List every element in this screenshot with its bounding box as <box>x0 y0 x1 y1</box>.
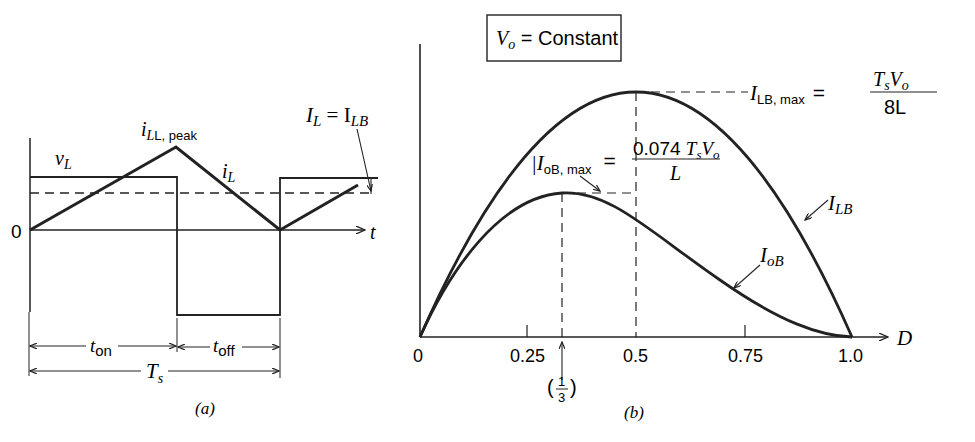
svg-text:): ) <box>570 376 577 398</box>
I-oB-max-numerator: 0.074 TsVo <box>633 138 720 162</box>
i-L-waveform <box>30 147 358 230</box>
one-third-marker: ( 1 3 ) <box>547 374 577 405</box>
tick-0: 0 <box>413 346 423 366</box>
I-oB-curve-label: IoB <box>759 243 784 269</box>
i-L-peak-label: iLL, peak <box>141 118 198 143</box>
tick-1-0: 1.0 <box>838 346 863 366</box>
caption-a: (a) <box>195 399 215 418</box>
I-oB-max-denominator: L <box>669 162 681 184</box>
origin-label: 0 <box>11 221 22 242</box>
tick-0-25: 0.25 <box>510 346 545 366</box>
t-on-label: ton <box>90 335 112 359</box>
I-LB-curve-label: ILB <box>827 191 853 217</box>
t-axis-label: t <box>370 221 376 243</box>
I-LB-pointer <box>805 200 828 220</box>
Ts-label: Ts <box>146 359 164 386</box>
I-L-pointer-arrow <box>357 129 371 191</box>
panel-a: vL iLL, peak iL IL = ILB 0 t ton toff Ts… <box>11 103 378 418</box>
v-L-label: vL <box>55 147 72 172</box>
I-LB-max-numerator: TsVo <box>873 68 909 93</box>
figure-canvas: vL iLL, peak iL IL = ILB 0 t ton toff Ts… <box>0 0 975 442</box>
v-L-waveform <box>30 177 378 315</box>
I-LB-max-denominator: 8L <box>884 96 906 118</box>
I-LB-max-label: ILB, max= <box>749 81 825 107</box>
caption-b: (b) <box>624 403 644 422</box>
i-L-label: iL <box>222 160 236 185</box>
panel-b: Vo = Constant ILB, max= TsVo 8L |IoB, ma… <box>413 15 937 422</box>
I-oB-pointer <box>734 265 760 288</box>
condition-label: Vo = Constant <box>496 27 619 52</box>
tick-0-75: 0.75 <box>728 346 763 366</box>
I-oB-max-pointer <box>580 176 600 191</box>
D-axis-label: D <box>896 326 912 350</box>
I-L-equals-I-LB-label: IL = ILB <box>305 103 368 129</box>
svg-text:1: 1 <box>558 374 565 389</box>
svg-text:(: ( <box>547 376 554 398</box>
tick-0-5: 0.5 <box>623 346 648 366</box>
svg-text:3: 3 <box>558 390 565 405</box>
t-off-label: toff <box>213 335 236 359</box>
I-oB-max-label: |IoB, max= <box>531 149 616 177</box>
